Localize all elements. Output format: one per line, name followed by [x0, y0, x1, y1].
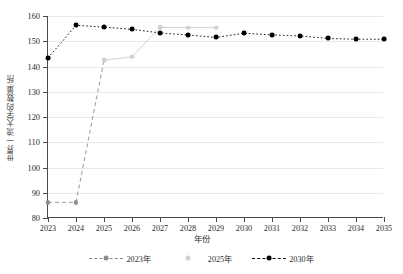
legend-marker-icon — [104, 256, 109, 261]
legend-item-2030年[interactable]: 2030年 — [252, 252, 313, 264]
y-tick-label: 100 — [27, 163, 40, 172]
series-line-2023年 — [48, 60, 104, 202]
plot-area: 8090100110120130140150160 20232024202520… — [47, 16, 383, 218]
legend-swatch — [171, 254, 205, 263]
chart-legend: 2023年2025年2030年 — [0, 252, 403, 264]
legend-swatch — [89, 254, 123, 263]
data-point-2030年 — [326, 36, 331, 41]
series-lines — [48, 16, 384, 218]
y-tick-label: 140 — [27, 62, 40, 71]
legend-label: 2030年 — [289, 252, 313, 264]
data-point-2025年 — [186, 25, 191, 30]
y-tick-label: 90 — [32, 188, 40, 197]
data-point-2030年 — [270, 33, 275, 38]
data-point-2030年 — [186, 33, 191, 38]
legend-item-2025年[interactable]: 2025年 — [171, 252, 232, 264]
series-line-2030年 — [48, 25, 384, 58]
chart-figure: 世界一流大学的数量/所 8090100110120130140150160 20… — [0, 0, 403, 274]
data-point-2030年 — [214, 35, 219, 40]
x-tick — [384, 217, 385, 222]
data-point-2025年 — [130, 55, 135, 60]
data-point-2030年 — [298, 34, 303, 39]
y-tick-label: 130 — [27, 87, 40, 96]
data-point-2025年 — [102, 58, 107, 63]
data-point-2025年 — [214, 25, 219, 30]
data-point-2030年 — [354, 37, 359, 42]
y-tick-label: 160 — [27, 12, 40, 21]
data-point-2030年 — [158, 31, 163, 36]
legend-item-2023年[interactable]: 2023年 — [89, 252, 150, 264]
data-point-2025年 — [158, 25, 163, 30]
data-point-2030年 — [74, 23, 79, 28]
data-point-2030年 — [102, 25, 107, 30]
legend-swatch — [252, 254, 286, 263]
data-point-2030年 — [382, 37, 387, 42]
y-tick-label: 150 — [27, 37, 40, 46]
y-tick-label: 80 — [32, 214, 40, 223]
legend-marker-icon — [185, 256, 190, 261]
data-point-2030年 — [130, 27, 135, 32]
legend-label: 2025年 — [208, 252, 232, 264]
legend-label: 2023年 — [126, 252, 150, 264]
data-point-2030年 — [242, 31, 247, 36]
legend-marker-icon — [267, 256, 272, 261]
y-tick-label: 110 — [28, 138, 40, 147]
y-axis-title: 世界一流大学的数量/所 — [4, 48, 18, 188]
y-tick-label: 120 — [27, 113, 40, 122]
x-axis-title: 年份 — [0, 232, 403, 244]
data-point-2030年 — [46, 56, 51, 61]
